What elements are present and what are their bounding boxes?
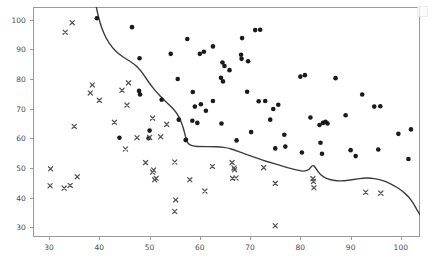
plot-area-frame — [33, 7, 420, 237]
x-tick-mark — [351, 237, 352, 240]
scatter-plot-figure: 30405060708090100 30405060708090100 — [0, 0, 434, 271]
y-tick-mark — [30, 198, 33, 199]
y-tick-mark — [30, 109, 33, 110]
y-tick-mark — [30, 20, 33, 21]
y-tick-mark — [30, 168, 33, 169]
legend-box — [417, 6, 428, 17]
y-tick-label: 100 — [0, 15, 26, 24]
x-tick-mark — [49, 237, 50, 240]
y-tick-mark — [30, 138, 33, 139]
x-tick-label: 50 — [145, 243, 155, 252]
x-tick-label: 80 — [296, 243, 306, 252]
x-tick-label: 30 — [44, 243, 54, 252]
x-tick-mark — [200, 237, 201, 240]
y-tick-label: 50 — [0, 163, 26, 172]
y-tick-label: 70 — [0, 104, 26, 113]
x-tick-label: 90 — [346, 243, 356, 252]
y-tick-mark — [30, 49, 33, 50]
x-tick-label: 70 — [245, 243, 255, 252]
y-tick-mark — [30, 79, 33, 80]
y-tick-label: 90 — [0, 45, 26, 54]
x-tick-mark — [300, 237, 301, 240]
x-tick-mark — [150, 237, 151, 240]
x-tick-mark — [250, 237, 251, 240]
x-tick-mark — [401, 237, 402, 240]
y-tick-label: 40 — [0, 193, 26, 202]
y-tick-label: 80 — [0, 75, 26, 84]
x-tick-label: 100 — [394, 243, 409, 252]
y-tick-label: 30 — [0, 223, 26, 232]
x-tick-label: 40 — [94, 243, 104, 252]
x-tick-mark — [99, 237, 100, 240]
y-tick-label: 60 — [0, 134, 26, 143]
y-tick-mark — [30, 227, 33, 228]
x-tick-label: 60 — [195, 243, 205, 252]
